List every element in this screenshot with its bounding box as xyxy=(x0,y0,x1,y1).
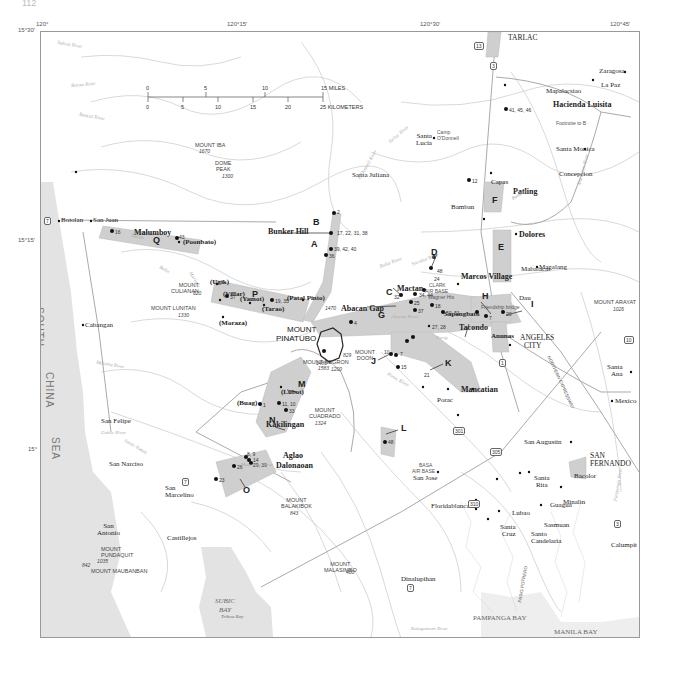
label-minalin: Minalin xyxy=(563,498,585,506)
label-fernando: FERNANDO xyxy=(590,460,631,468)
zone-k[interactable]: K xyxy=(445,358,452,368)
pinatubo-line-2: PINATUBO xyxy=(276,334,316,343)
label-patal-pinto: (Patal Pinto) xyxy=(287,294,325,302)
label-ugik: (Ugik) xyxy=(210,278,229,286)
zone-j[interactable]: J xyxy=(371,356,376,366)
elev-malasimbo: 400 xyxy=(346,569,354,575)
label-moraza: (Moraza) xyxy=(219,319,247,327)
label-mount-cuadrado: MOUNTCUADRADO xyxy=(309,407,340,419)
site-g: 4 xyxy=(354,320,357,326)
zone-f[interactable]: F xyxy=(492,195,498,205)
elev-culianan: 620 xyxy=(193,290,201,296)
site-j3: 15 xyxy=(401,364,407,370)
label-buag: (Buag) xyxy=(237,399,257,407)
santa-cruz-2: Cruz xyxy=(502,530,516,538)
label-castillejos: Castillejos xyxy=(167,534,197,542)
site-mactan3: 25 xyxy=(414,300,420,306)
site-k: 21 xyxy=(424,372,430,378)
label-concepcion: Concepcion xyxy=(559,170,592,178)
elev-pundaquit: 1035 xyxy=(97,558,108,564)
site-l: 48 xyxy=(388,439,394,445)
zone-n[interactable]: N xyxy=(269,415,276,425)
site-f: 12 xyxy=(472,178,478,184)
label-capas: Capas xyxy=(491,178,508,186)
highway-305: 305 xyxy=(490,448,502,456)
lon-tick-120-15: 120°15' xyxy=(227,21,247,27)
camp-odonnell-2: O'Donnell xyxy=(437,135,459,141)
elev-lunitan: 1330 xyxy=(178,312,189,318)
label-marcos-village: Marcos Village xyxy=(461,272,512,281)
label-sea: SEA xyxy=(50,437,61,460)
label-friendship-bridge: Friendship bridge xyxy=(481,304,520,310)
scale-mi-10: 10 xyxy=(262,85,268,91)
subic-bay xyxy=(199,547,273,637)
label-santa-ana: SantaAna xyxy=(607,364,623,378)
label-triboa-bay: Triboa Bay xyxy=(221,614,243,619)
san-antonio-2: Antonio xyxy=(97,529,120,537)
label-tarao: (Tarao) xyxy=(262,305,284,313)
highway-7-west: 7 xyxy=(44,217,51,225)
label-porac: Porac xyxy=(437,396,453,404)
zone-a[interactable]: A xyxy=(311,239,318,249)
map-frame: 0 5 10 15 MILES 0 5 10 15 20 25 KILOMETE… xyxy=(40,31,640,638)
highway-3-north: 3 xyxy=(490,62,497,70)
site-mactan: 34, 44 xyxy=(419,292,433,298)
label-santa-lucia: SantaLucia xyxy=(416,133,432,147)
label-san-jose: San Jose xyxy=(413,474,437,482)
label-south: SOUTH xyxy=(40,307,45,347)
label-san-antonio: SanAntonio xyxy=(97,523,120,537)
highway-7-south: 7 xyxy=(182,478,189,486)
zone-e[interactable]: E xyxy=(498,242,504,252)
elev-maubanban: 842 xyxy=(82,562,90,568)
site-j2: 7 xyxy=(400,351,403,357)
label-aglao: Aglao xyxy=(283,451,303,460)
pinatubo-line-1: MOUNT xyxy=(287,325,316,334)
site-n1: 1 xyxy=(263,402,266,408)
label-tarlac: TARLAC xyxy=(508,34,537,42)
label-mount-balakibok: MOUNTBALAKIBOK xyxy=(281,497,312,509)
zone-tarlac xyxy=(486,32,501,57)
river-mayantoc: Mayantoc River xyxy=(241,462,273,467)
label-bacolor: Bacolor xyxy=(574,472,596,480)
label-mount-pundaquit: MOUNTPUNDAQUIT xyxy=(101,546,133,558)
label-pampanga-bay: PAMPANGA BAY xyxy=(473,614,527,622)
zone-g[interactable]: G xyxy=(378,310,385,320)
zone-i[interactable]: I xyxy=(531,299,534,309)
site-d1: 48 xyxy=(437,268,443,274)
label-dinalupihan: Dinalupihan xyxy=(401,575,436,583)
river-gabor: Gabor River xyxy=(101,430,126,435)
santa-ana-2: Ana xyxy=(611,370,623,378)
label-bamban: Bamban xyxy=(451,203,474,211)
balakibok-2: BALAKIBOK xyxy=(281,503,312,509)
zone-p[interactable]: P xyxy=(252,289,258,299)
label-manila-bay: MANILA BAY xyxy=(554,628,598,636)
highway-301: 301 xyxy=(453,427,465,435)
elev-arayat: 1026 xyxy=(613,306,624,312)
label-dome-peak: DOMEPEAK xyxy=(215,160,232,172)
label-mancatian: Mancatian xyxy=(461,385,498,394)
highway-310: 310 xyxy=(468,500,480,508)
zone-q[interactable]: Q xyxy=(153,235,160,245)
elev-cuadrado: 1324 xyxy=(315,420,326,426)
highway-3-south: 3 xyxy=(614,520,621,528)
zone-c[interactable]: C xyxy=(386,287,393,297)
site-q2: 43 xyxy=(179,234,185,240)
zone-h[interactable]: H xyxy=(482,291,489,301)
site-hacienda: 41, 45, 46 xyxy=(509,107,531,113)
label-santo-candelaria: SantoCandelaria xyxy=(531,531,561,545)
zone-m[interactable]: M xyxy=(298,379,306,389)
zone-b[interactable]: B xyxy=(313,217,320,227)
highway-13: 13 xyxy=(474,42,484,50)
zone-o[interactable]: O xyxy=(243,485,250,495)
label-san-narciso: San Narciso xyxy=(109,460,143,468)
santa-rita-2: Rita xyxy=(536,481,548,489)
lon-tick-120-30: 120°30' xyxy=(420,21,440,27)
scale-km-5: 5 xyxy=(181,104,184,110)
elev-1200: 1200 xyxy=(331,366,342,372)
label-lubao: Lubao xyxy=(512,509,530,517)
elev-1470: 1470 xyxy=(325,305,336,311)
santo-candelaria-2: Candelaria xyxy=(531,537,561,545)
zone-l[interactable]: L xyxy=(401,423,407,433)
label-san-felipe: San Felipe xyxy=(101,417,131,425)
label-dalonaoan: Dalonaoan xyxy=(276,461,313,470)
